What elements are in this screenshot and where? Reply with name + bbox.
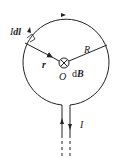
label-r: r xyxy=(42,59,46,70)
field-into-page-icon xyxy=(59,58,69,68)
lead-in-arrow-icon xyxy=(60,118,64,124)
label-Idl: Idl xyxy=(9,26,21,37)
label-current-I: I xyxy=(79,119,84,130)
label-dB: dB xyxy=(72,68,84,79)
label-R: R xyxy=(83,44,90,55)
loop-direction-arrow-icon xyxy=(61,13,66,17)
radius-vector-r xyxy=(25,43,52,57)
current-element-arrow-icon xyxy=(27,27,31,33)
loop-diagram: Idl r R O dB I xyxy=(0,0,116,157)
lead-out-arrow-icon xyxy=(68,124,72,130)
label-O: O xyxy=(59,71,66,82)
